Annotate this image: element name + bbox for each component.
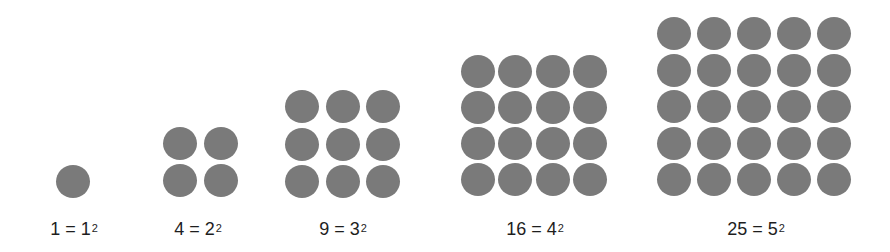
dot: [56, 165, 90, 198]
dot: [573, 55, 607, 88]
dot: [204, 127, 238, 160]
dot: [737, 163, 771, 196]
dot: [737, 54, 771, 87]
dot: [817, 17, 851, 50]
dot: [163, 164, 197, 197]
label-base: 3: [350, 219, 360, 239]
dot: [326, 90, 360, 123]
label-16: 16 = 42: [506, 218, 564, 240]
dot: [536, 163, 570, 196]
label-base: 1: [81, 219, 91, 239]
label-equals: =: [189, 219, 200, 239]
dot: [204, 164, 238, 197]
square-numbers-figure: 1 = 12 4 = 22 9 = 32 16 = 42 25 = 52: [0, 0, 890, 252]
label-4: 4 = 22: [174, 218, 222, 240]
dot: [697, 163, 731, 196]
label-base: 4: [547, 219, 557, 239]
label-equals: =: [531, 219, 542, 239]
label-value: 9: [319, 219, 329, 239]
dot: [461, 91, 495, 124]
dot: [817, 90, 851, 123]
dot: [657, 127, 691, 160]
label-value: 25: [727, 219, 747, 239]
label-value: 1: [50, 219, 60, 239]
dot: [657, 163, 691, 196]
label-1: 1 = 12: [50, 218, 98, 240]
dot: [777, 17, 811, 50]
dot: [697, 54, 731, 87]
dot: [697, 127, 731, 160]
dot: [498, 163, 532, 196]
dot: [737, 90, 771, 123]
dot: [817, 54, 851, 87]
label-exponent: 2: [92, 222, 98, 234]
label-base: 2: [205, 219, 215, 239]
dot: [536, 127, 570, 160]
dot: [536, 55, 570, 88]
dot: [817, 127, 851, 160]
dot: [498, 127, 532, 160]
dot: [326, 128, 360, 161]
label-base: 5: [768, 219, 778, 239]
dot: [657, 17, 691, 50]
dot: [777, 54, 811, 87]
dot: [657, 90, 691, 123]
label-value: 16: [506, 219, 526, 239]
dot: [366, 165, 400, 198]
dot: [777, 163, 811, 196]
dot: [461, 127, 495, 160]
label-value: 4: [174, 219, 184, 239]
dot: [366, 90, 400, 123]
label-exponent: 2: [558, 222, 564, 234]
dot: [697, 17, 731, 50]
dot: [573, 91, 607, 124]
dot: [573, 127, 607, 160]
dot: [777, 127, 811, 160]
dot: [573, 163, 607, 196]
dot: [163, 127, 197, 160]
dot: [697, 90, 731, 123]
dot: [366, 128, 400, 161]
dot: [737, 127, 771, 160]
dot: [777, 90, 811, 123]
dot: [285, 165, 319, 198]
label-equals: =: [65, 219, 76, 239]
dot: [817, 163, 851, 196]
dot: [737, 17, 771, 50]
dot: [461, 55, 495, 88]
label-9: 9 = 32: [319, 218, 367, 240]
label-exponent: 2: [779, 222, 785, 234]
dot: [657, 54, 691, 87]
label-25: 25 = 52: [727, 218, 785, 240]
dot: [326, 165, 360, 198]
label-equals: =: [334, 219, 345, 239]
label-exponent: 2: [361, 222, 367, 234]
dot: [285, 128, 319, 161]
label-equals: =: [752, 219, 763, 239]
dot: [498, 55, 532, 88]
dot: [285, 90, 319, 123]
dot: [461, 163, 495, 196]
dot: [536, 91, 570, 124]
dot: [498, 91, 532, 124]
label-exponent: 2: [216, 222, 222, 234]
